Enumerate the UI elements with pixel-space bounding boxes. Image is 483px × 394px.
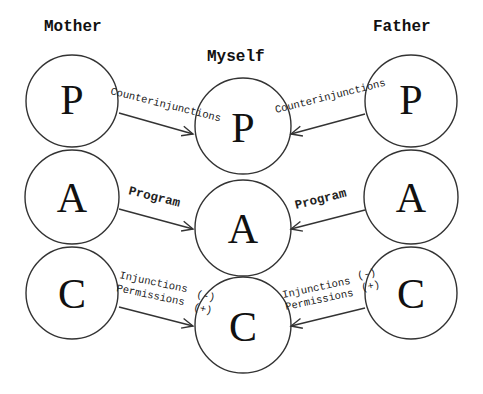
label-program-left: Program [127, 184, 182, 210]
myself-adult-letter: A [228, 206, 259, 252]
arrow-mother-child [119, 307, 193, 326]
mother-parent-letter: P [60, 77, 83, 123]
arrow-mother-adult [119, 209, 193, 229]
father-ego-states: P A C [364, 55, 458, 339]
mother-adult-letter: A [57, 175, 88, 221]
heading-myself: Myself [207, 48, 265, 66]
myself-parent-letter: P [231, 105, 254, 151]
label-program-right: Program [294, 186, 349, 212]
mother-child-letter: C [58, 271, 86, 317]
script-matrix-diagram: Mother Myself Father P A C P A C P A C C… [0, 0, 483, 394]
father-child-letter: C [397, 271, 425, 317]
heading-father: Father [373, 18, 431, 36]
arrow-father-child [291, 308, 365, 326]
father-adult-letter: A [396, 175, 427, 221]
label-counterinjunctions-left: Counterinjunctions [109, 85, 222, 124]
label-positive-right: (+) [360, 278, 381, 294]
father-parent-letter: P [399, 77, 422, 123]
arrow-mother-parent [119, 113, 193, 134]
label-counterinjunctions-right: Counterinjunctions [274, 77, 387, 116]
arrow-father-parent [291, 114, 365, 134]
heading-mother: Mother [44, 18, 102, 36]
myself-child-letter: C [229, 304, 257, 350]
mother-ego-states: P A C [25, 55, 119, 339]
myself-ego-states: P A C [195, 78, 291, 373]
arrow-father-adult [291, 210, 365, 229]
